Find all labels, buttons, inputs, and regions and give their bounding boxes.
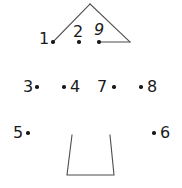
dot-marker-1[interactable] xyxy=(51,40,54,43)
roof-left-edge xyxy=(53,4,90,42)
dot-marker-3[interactable] xyxy=(35,85,38,88)
dot-marker-4[interactable] xyxy=(62,85,65,88)
trunk-outline xyxy=(67,135,114,175)
dot-number-label-8: 8 xyxy=(147,79,157,95)
dot-number-label-1: 1 xyxy=(39,31,49,47)
dot-marker-9[interactable] xyxy=(97,40,100,43)
dot-number-label-9: 9 xyxy=(94,22,104,38)
dot-number-label-2: 2 xyxy=(73,24,83,40)
dot-marker-7[interactable] xyxy=(112,85,115,88)
dot-marker-8[interactable] xyxy=(139,85,142,88)
connect-the-dots-puzzle: 129347856 xyxy=(0,0,182,188)
dot-marker-6[interactable] xyxy=(152,131,155,134)
dot-number-label-4: 4 xyxy=(70,79,80,95)
dot-number-label-6: 6 xyxy=(160,125,170,141)
dot-marker-5[interactable] xyxy=(26,131,29,134)
dot-number-label-3: 3 xyxy=(23,79,33,95)
dot-number-label-7: 7 xyxy=(97,79,107,95)
dot-number-label-5: 5 xyxy=(13,125,23,141)
